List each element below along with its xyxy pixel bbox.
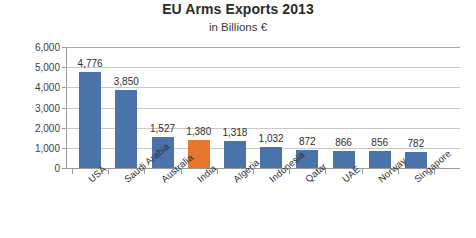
bar-value-label: 782 bbox=[408, 138, 425, 149]
bar-value-label: 1,318 bbox=[222, 127, 247, 138]
y-axis-tick-label: 0 bbox=[22, 163, 60, 174]
chart-subtitle: in Billions € bbox=[0, 21, 476, 33]
bar[interactable] bbox=[224, 141, 246, 168]
gridline bbox=[66, 67, 460, 68]
plot-area: 4,7763,8501,5271,3801,3181,0328728668567… bbox=[66, 47, 460, 168]
y-axis-tick-label: 4,000 bbox=[22, 82, 60, 93]
bar-value-label: 872 bbox=[299, 136, 316, 147]
gridline bbox=[66, 87, 460, 88]
bar[interactable] bbox=[79, 72, 101, 168]
chart-title: EU Arms Exports 2013 bbox=[0, 1, 476, 17]
bar-value-label: 866 bbox=[335, 137, 352, 148]
bar-value-label: 3,850 bbox=[114, 76, 139, 87]
y-axis-tick-label: 1,000 bbox=[22, 142, 60, 153]
bar-value-label: 4,776 bbox=[78, 58, 103, 69]
y-axis-tick-label: 2,000 bbox=[22, 122, 60, 133]
bar-value-label: 1,527 bbox=[150, 123, 175, 134]
bar-value-label: 856 bbox=[371, 137, 388, 148]
bar[interactable] bbox=[115, 90, 137, 168]
x-axis-tick-mark bbox=[72, 169, 73, 174]
gridline bbox=[66, 47, 460, 48]
y-axis-tick-label: 3,000 bbox=[22, 102, 60, 113]
bar-value-label: 1,380 bbox=[186, 126, 211, 137]
bar-value-label: 1,032 bbox=[259, 133, 284, 144]
y-axis-tick-label: 6,000 bbox=[22, 42, 60, 53]
bar-chart: EU Arms Exports 2013 in Billions € Billi… bbox=[0, 0, 476, 238]
y-axis-tick-label: 5,000 bbox=[22, 62, 60, 73]
